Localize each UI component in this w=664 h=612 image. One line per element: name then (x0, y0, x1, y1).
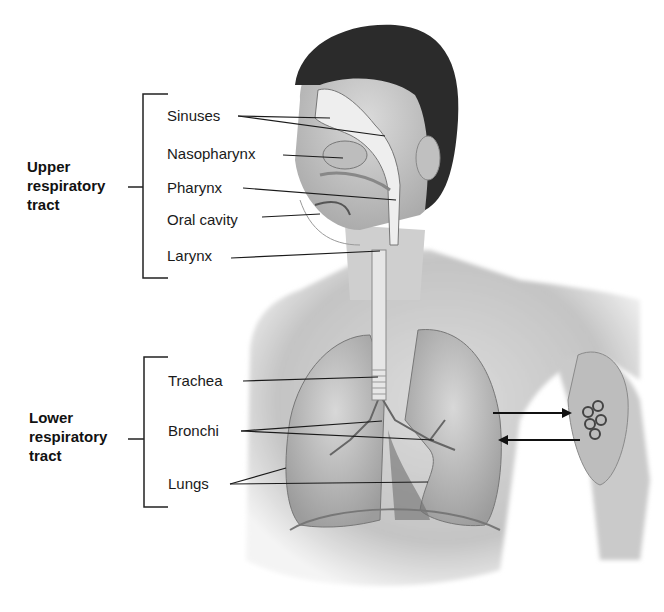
upper-respiratory-tract-label: Upper respiratory tract (27, 157, 105, 214)
group-label-line: tract (29, 446, 107, 465)
anatomy-illustration (0, 0, 664, 612)
lower-bracket (144, 357, 168, 507)
label-bronchi: Bronchi (168, 422, 219, 440)
label-oral-cavity: Oral cavity (167, 211, 238, 229)
label-lungs: Lungs (168, 475, 209, 493)
label-sinuses: Sinuses (167, 107, 220, 125)
upper-bracket (143, 94, 168, 278)
group-label-line: tract (27, 195, 105, 214)
label-trachea: Trachea (168, 372, 222, 390)
brackets (128, 94, 168, 507)
lower-respiratory-tract-label: Lower respiratory tract (29, 408, 107, 465)
label-nasopharynx: Nasopharynx (167, 145, 255, 163)
label-larynx: Larynx (167, 247, 212, 265)
group-label-line: respiratory (27, 176, 105, 195)
respiratory-diagram: Upper respiratory tract Lower respirator… (0, 0, 664, 612)
group-label-line: respiratory (29, 427, 107, 446)
group-label-line: Upper (27, 157, 105, 176)
group-label-line: Lower (29, 408, 107, 427)
label-pharynx: Pharynx (167, 179, 222, 197)
